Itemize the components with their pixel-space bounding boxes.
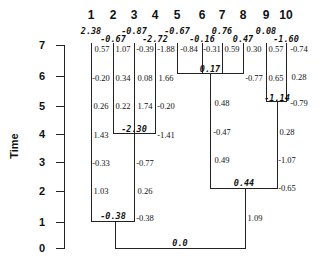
branch-value: -0.38 xyxy=(136,213,154,223)
leaf-value: -0.67 xyxy=(164,26,190,36)
branch-value: 0.22 xyxy=(116,101,131,111)
leaf-label: 7 xyxy=(219,8,226,22)
branch-value: 0.26 xyxy=(94,101,109,111)
axis-tick-label: 2 xyxy=(39,185,45,197)
leaf-label: 3 xyxy=(131,8,138,22)
axis-tick-label: 5 xyxy=(39,100,45,112)
branch-clade-right xyxy=(245,188,246,249)
leaf-value: 2.38 xyxy=(81,26,101,36)
axis-tick-mark xyxy=(56,45,65,46)
branch-value: -0.79 xyxy=(290,98,308,108)
internal-node-value: 0.44 xyxy=(234,178,254,188)
branch-value: -0.77 xyxy=(136,158,154,168)
branch-clade-5-8 xyxy=(210,73,211,189)
leaf-label: 1 xyxy=(88,8,95,22)
axis-tick-label: 0 xyxy=(39,242,45,254)
branch-value: -0.65 xyxy=(278,183,296,193)
branch-value: 0.49 xyxy=(215,155,230,165)
branch-value: 1.09 xyxy=(248,213,263,223)
axis-tick-label: 3 xyxy=(39,156,45,168)
branch-value: 0.08 xyxy=(138,73,153,83)
branch-clade-9-10 xyxy=(277,101,278,189)
internal-node-value: -1.14 xyxy=(264,93,290,103)
branch-value: 0.59 xyxy=(225,44,240,54)
branch-value: -0.20 xyxy=(157,101,175,111)
join-1-3 xyxy=(91,221,135,222)
branch-value: 1.07 xyxy=(116,44,131,54)
branch-clade-left xyxy=(115,221,116,249)
axis-tick-mark xyxy=(56,222,65,223)
branch-value: 0.57 xyxy=(269,44,284,54)
axis-tick-label: 4 xyxy=(39,128,45,140)
branch-value: -0.33 xyxy=(92,158,110,168)
branch-value: -0.47 xyxy=(213,127,231,137)
leaf-label: 4 xyxy=(152,8,159,22)
branch-value: 0.48 xyxy=(215,98,230,108)
branch-value: 0.28 xyxy=(280,127,295,137)
branch-value: 1.74 xyxy=(138,101,153,111)
root-join xyxy=(115,248,246,249)
branch-value: -1.41 xyxy=(157,130,175,140)
branch-value: 0.65 xyxy=(269,73,284,83)
internal-node-value: 0.17 xyxy=(200,64,220,74)
branch-value: 0.28 xyxy=(292,72,307,82)
branch-leaf-8 xyxy=(243,43,244,74)
branch-leaf-5 xyxy=(177,43,178,74)
branch-value: -0.84 xyxy=(180,44,198,54)
axis-tick-mark xyxy=(56,248,65,249)
branch-value: -0.39 xyxy=(136,44,154,54)
branch-value: 1.66 xyxy=(159,73,174,83)
axis-tick-mark xyxy=(56,134,65,135)
branch-value: -0.74 xyxy=(290,44,308,54)
axis-tick-label: 6 xyxy=(39,70,45,82)
branch-leaf-1 xyxy=(91,43,92,222)
internal-node-value: 0.0 xyxy=(172,238,187,248)
branch-value: -0.31 xyxy=(203,44,221,54)
leaf-label: 9 xyxy=(263,8,270,22)
leaf-value: 0.76 xyxy=(212,26,232,36)
branch-value: 0.57 xyxy=(95,44,110,54)
internal-node-value: -2.30 xyxy=(121,124,147,134)
branch-value: -0.20 xyxy=(92,73,110,83)
axis-tick-mark xyxy=(56,106,65,107)
join-right xyxy=(210,188,278,189)
axis-tick-mark xyxy=(56,162,65,163)
branch-value: 0.26 xyxy=(138,186,153,196)
leaf-label: 8 xyxy=(240,8,247,22)
branch-value: 0.34 xyxy=(116,73,131,83)
leaf-label: 5 xyxy=(174,8,181,22)
branch-value: 1.43 xyxy=(94,130,109,140)
axis-tick-label: 1 xyxy=(39,216,45,228)
branch-value: -0.77 xyxy=(245,73,263,83)
axis-title: Time xyxy=(8,133,20,158)
branch-leaf-2 xyxy=(113,43,114,134)
branch-value: 0.30 xyxy=(247,44,262,54)
axis-tick-mark xyxy=(56,191,65,192)
branch-value: -1.07 xyxy=(278,155,296,165)
branch-value: -1.88 xyxy=(157,44,175,54)
branch-value: 1.03 xyxy=(94,186,109,196)
branch-leaf-4 xyxy=(155,43,156,134)
internal-node-value: -0.38 xyxy=(100,211,126,221)
leaf-label: 10 xyxy=(279,8,292,22)
leaf-label: 2 xyxy=(110,8,117,22)
axis-tick-label: 7 xyxy=(39,39,45,51)
axis-tick-mark xyxy=(56,76,65,77)
branch-leaf-7 xyxy=(222,43,223,74)
leaf-label: 6 xyxy=(199,8,206,22)
